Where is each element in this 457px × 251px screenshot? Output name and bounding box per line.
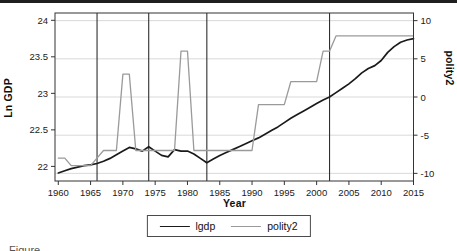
left-tick-label: 22 <box>37 161 48 172</box>
right-tick-label: 0 <box>421 92 426 103</box>
right-tick-label: 10 <box>421 15 432 26</box>
figure-caption-partial: Figure <box>9 244 449 251</box>
legend-label-polity2: polity2 <box>267 220 297 232</box>
legend-label-lgdp: lgdp <box>195 220 215 232</box>
right-tick-label: -10 <box>421 168 435 179</box>
left-axis-title: Ln GDP <box>2 63 14 133</box>
x-axis-title: Year <box>55 197 414 209</box>
legend-item-polity2: polity2 <box>231 220 297 232</box>
figure-page: 2222.52323.524-10-5051019601965197019751… <box>0 0 457 251</box>
right-tick-label: -5 <box>421 130 429 141</box>
polity2-line <box>58 36 413 166</box>
polity2-line-sample <box>231 226 261 227</box>
lgdp-line-sample <box>159 226 189 227</box>
left-tick-label: 23.5 <box>30 51 49 62</box>
legend: lgdppolity2 <box>146 215 310 237</box>
gdp-polity-chart: 2222.52323.524-10-5051019601965197019751… <box>0 0 457 251</box>
right-axis-title: polity2 <box>444 30 456 106</box>
left-tick-label: 23 <box>37 88 48 99</box>
right-tick-label: 5 <box>421 53 426 64</box>
left-tick-label: 22.5 <box>30 124 49 135</box>
left-tick-label: 24 <box>37 15 48 26</box>
legend-item-lgdp: lgdp <box>159 220 215 232</box>
